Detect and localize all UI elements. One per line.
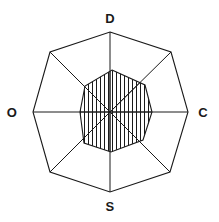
radar-figure: D C S O xyxy=(0,0,219,222)
axis-label-right: C xyxy=(198,106,208,119)
axis-label-bottom: S xyxy=(106,200,115,213)
axis-label-top: D xyxy=(105,12,115,25)
inner-hatched-region-group xyxy=(80,70,152,152)
axis-label-left: O xyxy=(7,106,17,119)
radar-chart-svg xyxy=(0,0,219,222)
